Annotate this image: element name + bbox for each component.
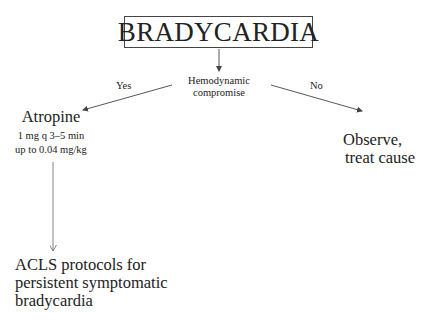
- yes-label: Yes: [116, 80, 131, 91]
- decision-node: Hemodynamic compromise: [174, 75, 264, 99]
- acls-line3: bradycardia: [15, 292, 168, 310]
- decision-line1: Hemodynamic: [174, 75, 264, 87]
- no-label: No: [310, 80, 323, 91]
- acls-node: ACLS protocols for persistent symptomati…: [15, 256, 168, 310]
- observe-line2: treat cause: [343, 149, 415, 167]
- title-box: BRADYCARDIA: [124, 16, 313, 48]
- acls-line1: ACLS protocols for: [15, 256, 168, 274]
- atropine-dose-line2: up to 0.04 mg/kg: [10, 143, 92, 157]
- atropine-title: Atropine: [10, 108, 92, 126]
- observe-line1: Observe,: [343, 131, 415, 149]
- atropine-node: Atropine 1 mg q 3–5 min up to 0.04 mg/kg: [10, 108, 92, 157]
- acls-line2: persistent symptomatic: [15, 274, 168, 292]
- observe-node: Observe, treat cause: [343, 131, 415, 167]
- atropine-dose-line1: 1 mg q 3–5 min: [10, 129, 92, 143]
- title-text: BRADYCARDIA: [118, 19, 319, 46]
- decision-line2: compromise: [174, 87, 264, 99]
